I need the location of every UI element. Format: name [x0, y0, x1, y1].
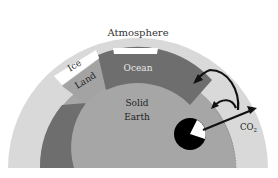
carbon-cycle-diagram: Atmosphere Ice Land Ocean Solid Earth CO…	[0, 0, 278, 178]
ice-region-top	[113, 48, 158, 54]
atmosphere-label: Atmosphere	[106, 27, 168, 38]
co2-label-subscript: 2	[253, 127, 257, 133]
ocean-label: Ocean	[124, 63, 153, 73]
solid-earth-label-line2: Earth	[124, 112, 150, 122]
co2-label-main: CO	[240, 122, 254, 132]
solid-earth-label-line1: Solid	[125, 98, 148, 108]
